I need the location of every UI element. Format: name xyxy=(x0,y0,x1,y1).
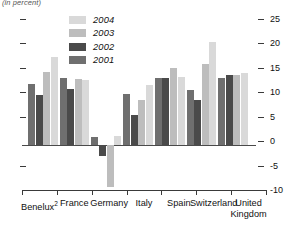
bar-switzerland-2002 xyxy=(194,100,201,145)
bar-group xyxy=(187,19,219,190)
category-tick xyxy=(127,190,128,195)
category-label-france: France xyxy=(60,198,89,209)
category-tick xyxy=(231,190,232,195)
bar-united-kingdom-2003 xyxy=(233,75,240,145)
bar-united-kingdom-2004 xyxy=(241,73,248,145)
bar-united-kingdom-2001 xyxy=(218,78,225,145)
y-tick-label: 10 xyxy=(270,87,280,97)
bar-spain-2003 xyxy=(170,68,177,145)
y-tick-right xyxy=(258,92,264,93)
y-tick-left xyxy=(20,117,26,118)
bar-italy-2004 xyxy=(146,85,153,145)
y-tick-label: -10 xyxy=(270,185,283,195)
y-tick-label: -5 xyxy=(270,161,278,171)
bar-group xyxy=(123,19,155,190)
y-tick-right xyxy=(258,166,264,167)
y-tick-right xyxy=(258,117,264,118)
y-tick-label: 5 xyxy=(270,112,275,122)
y-tick-label: 20 xyxy=(270,38,280,48)
y-tick-left xyxy=(20,19,26,20)
bar-switzerland-2003 xyxy=(202,64,209,145)
y-tick-right xyxy=(258,19,264,20)
bar-spain-2002 xyxy=(162,78,169,145)
category-tick xyxy=(57,190,58,195)
category-label-germany: Germany xyxy=(90,198,128,209)
bar-france-2001 xyxy=(60,78,67,145)
bar-group xyxy=(60,19,92,190)
y-tick-left xyxy=(20,43,26,44)
category-label-spain: Spain xyxy=(167,198,191,209)
bar-germany-2001 xyxy=(91,137,98,145)
bar-germany-2004 xyxy=(114,136,121,145)
category-tick xyxy=(22,190,23,195)
bar-switzerland-2004 xyxy=(209,42,216,145)
y-tick-right xyxy=(258,68,264,69)
bar-france-2003 xyxy=(75,79,82,145)
bar-benelux-2002 xyxy=(36,95,43,145)
y-tick-label: 25 xyxy=(270,14,280,24)
bar-united-kingdom-2002 xyxy=(226,75,233,145)
bar-benelux-2004 xyxy=(51,57,58,145)
bar-switzerland-2001 xyxy=(187,90,194,145)
bar-group xyxy=(218,19,250,190)
bar-spain-2001 xyxy=(155,78,162,145)
category-tick xyxy=(92,190,93,195)
bar-germany-2002 xyxy=(99,145,106,156)
category-tick xyxy=(161,190,162,195)
bar-france-2004 xyxy=(82,80,89,145)
y-tick-left xyxy=(20,68,26,69)
bar-group xyxy=(28,19,60,190)
y-tick-left xyxy=(20,92,26,93)
plot-area xyxy=(28,19,250,190)
bar-spain-2004 xyxy=(178,77,185,145)
y-tick-right xyxy=(258,141,264,142)
bar-italy-2001 xyxy=(123,94,130,145)
bar-benelux-2003 xyxy=(43,72,50,145)
y-tick-left xyxy=(20,166,26,167)
chart-units-note: (in percent) xyxy=(2,0,41,7)
category-label-united-kingdom: UnitedKingdom xyxy=(230,198,266,220)
bar-france-2002 xyxy=(67,89,74,145)
category-label-benelux: Benelux2 xyxy=(21,198,58,213)
category-tick xyxy=(266,190,267,195)
bar-italy-2002 xyxy=(131,115,138,145)
bar-group xyxy=(155,19,187,190)
y-tick-right xyxy=(258,43,264,44)
category-tick xyxy=(196,190,197,195)
y-tick-label: 15 xyxy=(270,63,280,73)
bar-italy-2003 xyxy=(138,100,145,145)
y-tick-label: 0 xyxy=(270,136,275,146)
bar-group xyxy=(91,19,123,190)
bar-germany-2003 xyxy=(107,145,114,187)
bar-benelux-2001 xyxy=(28,84,35,145)
category-label-italy: Italy xyxy=(136,198,153,209)
category-axis-line xyxy=(22,190,266,191)
